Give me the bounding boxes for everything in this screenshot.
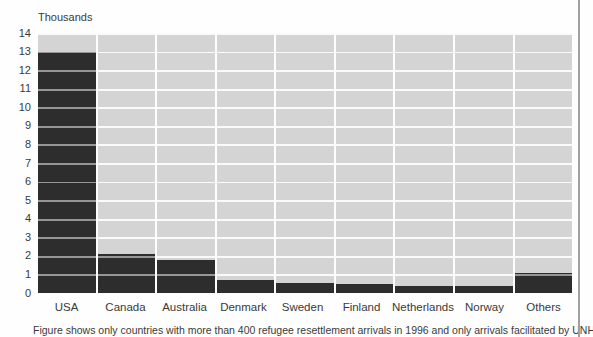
bar: [217, 280, 275, 293]
y-tick-label: 4: [5, 212, 31, 225]
y-tick-label: 2: [5, 249, 31, 262]
y-tick-label: 13: [5, 45, 31, 58]
x-tick-label: Norway: [456, 301, 513, 313]
x-tick-label: Others: [515, 301, 572, 313]
figure-caption: Figure shows only countries with more th…: [33, 324, 578, 336]
x-tick-label: Sweden: [274, 301, 331, 313]
bar-column: [395, 33, 453, 293]
bar: [38, 52, 96, 293]
y-tick-label: 7: [5, 157, 31, 170]
bar-column: [98, 33, 156, 293]
y-tick-label: 14: [5, 27, 31, 40]
bar-column: [455, 33, 513, 293]
bar: [336, 284, 394, 293]
chart-canvas: Thousands 01234567891011121314 USACanada…: [0, 0, 593, 337]
bar: [157, 260, 215, 293]
bar: [98, 254, 156, 293]
y-tick-label: 5: [5, 194, 31, 207]
x-tick-label: Denmark: [215, 301, 272, 313]
bar-column: [515, 33, 573, 293]
bar-column: [336, 33, 394, 293]
y-tick-label: 1: [5, 268, 31, 281]
y-axis-unit-label: Thousands: [38, 11, 92, 23]
y-tick-label: 9: [5, 119, 31, 132]
x-tick-label: Netherlands: [392, 301, 454, 313]
bar-column: [38, 33, 96, 293]
x-tick-label: Finland: [333, 301, 390, 313]
plot-area: [38, 33, 572, 293]
y-tick-label: 8: [5, 138, 31, 151]
bar: [455, 286, 513, 293]
x-tick-label: Australia: [156, 301, 213, 313]
x-axis-labels: USACanadaAustraliaDenmarkSwedenFinlandNe…: [38, 301, 572, 313]
y-tick-label: 3: [5, 231, 31, 244]
bar: [276, 283, 334, 293]
y-tick-label: 12: [5, 64, 31, 77]
y-tick-label: 0: [5, 287, 31, 300]
y-tick-label: 11: [5, 82, 31, 95]
right-border-line: [578, 0, 580, 337]
bar-column: [157, 33, 215, 293]
y-tick-label: 10: [5, 101, 31, 114]
x-tick-label: Canada: [97, 301, 154, 313]
y-tick-label: 6: [5, 175, 31, 188]
bar: [395, 286, 453, 293]
bar-column: [217, 33, 275, 293]
x-tick-label: USA: [38, 301, 95, 313]
bar: [515, 273, 573, 293]
bar-column: [276, 33, 334, 293]
